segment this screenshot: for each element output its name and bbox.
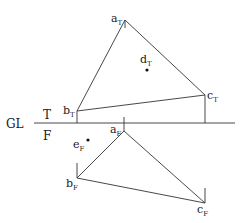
label-e-front: eF xyxy=(73,138,85,153)
front-view-triangle xyxy=(77,131,205,203)
orthographic-projection-diagram: GL T F aT bT cT dT aF bF cF eF xyxy=(0,0,248,223)
point-e-front xyxy=(86,138,89,141)
ground-line-label: GL xyxy=(6,117,24,131)
label-a-top: aT xyxy=(111,12,123,27)
point-d-top xyxy=(145,68,148,71)
label-c-front: cF xyxy=(197,203,208,218)
label-b-top: bT xyxy=(63,104,75,119)
label-d-top: dT xyxy=(140,53,152,68)
front-plane-label: F xyxy=(43,129,51,143)
top-plane-label: T xyxy=(43,108,51,122)
label-b-front: bF xyxy=(66,177,78,192)
label-c-top: cT xyxy=(207,89,218,104)
label-a-front: aF xyxy=(110,123,122,138)
